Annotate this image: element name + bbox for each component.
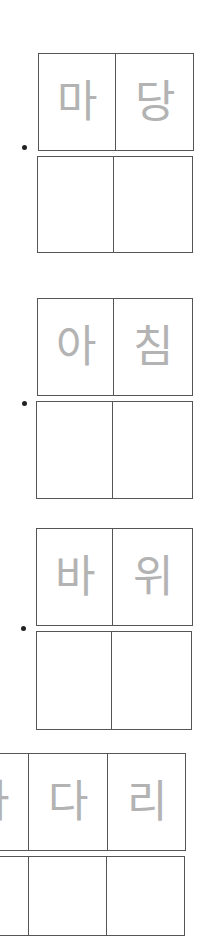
bullet [21,626,26,631]
bullet [22,145,27,150]
write-row-3[interactable] [36,631,192,730]
trace-char: 아 [56,325,96,369]
trace-char: 리 [127,780,167,824]
write-cell[interactable] [114,157,192,252]
bullet [22,401,27,406]
trace-row-1: 마 당 [38,53,194,151]
write-row-4[interactable] [0,856,185,936]
write-cell[interactable] [107,857,184,935]
trace-cell: 위 [113,529,192,625]
trace-char: 다 [48,780,88,824]
trace-row-3: 바 위 [36,528,193,626]
write-cell[interactable] [37,632,112,729]
write-cell[interactable] [112,632,191,729]
trace-cell: 바 [37,529,113,625]
trace-char: 마 [57,80,97,124]
trace-char: 침 [133,325,173,369]
trace-char: 사 [0,780,9,824]
write-row-2[interactable] [36,401,193,499]
trace-char: 위 [133,555,173,599]
trace-cell: 침 [114,299,192,395]
trace-row-4: 사 다 리 [0,753,186,851]
write-row-1[interactable] [37,156,193,253]
write-cell[interactable] [0,857,29,935]
write-cell[interactable] [38,157,114,252]
trace-cell: 사 [0,754,29,850]
trace-cell: 마 [39,54,116,150]
trace-cell: 다 [29,754,108,850]
trace-char: 당 [135,80,175,124]
trace-cell: 당 [116,54,193,150]
trace-row-2: 아 침 [37,298,193,396]
write-cell[interactable] [113,402,192,498]
write-cell[interactable] [37,402,113,498]
write-cell[interactable] [29,857,107,935]
trace-cell: 리 [108,754,185,850]
trace-char: 바 [55,555,95,599]
trace-cell: 아 [38,299,114,395]
